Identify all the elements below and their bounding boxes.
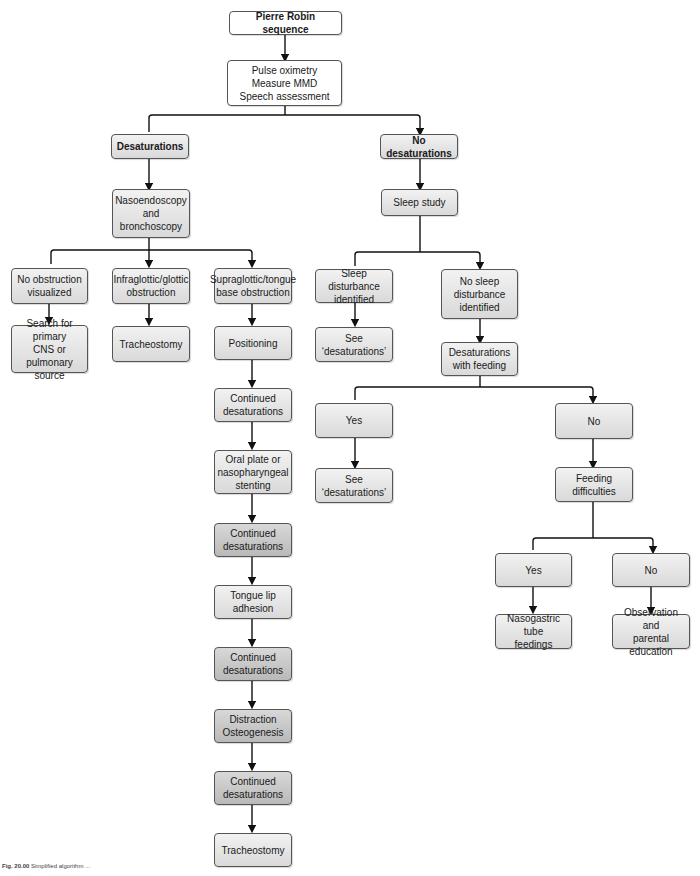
node-initial-assessment: Pulse oximetry Measure MMD Speech assess… [227, 60, 342, 106]
node-continued-desaturations-3: Continued desaturations [214, 647, 292, 681]
node-no-desaturations: No desaturations [380, 134, 458, 159]
node-see-desaturations-1: See ‘desaturations’ [315, 327, 393, 362]
node-sleep-study: Sleep study [381, 189, 458, 216]
node-continued-desaturations-4: Continued desaturations [214, 771, 292, 805]
node-feeding-difficulties: Feeding difficulties [555, 467, 633, 502]
node-tracheostomy-infra: Tracheostomy [112, 326, 190, 362]
node-tongue-lip-adhesion: Tongue lip adhesion [214, 585, 292, 619]
node-search-primary-source: Search for primary CNS or pulmonary sour… [11, 325, 88, 373]
node-nasoendoscopy: Nasoendoscopy and bronchoscopy [112, 189, 190, 238]
node-continued-desaturations-1: Continued desaturations [214, 388, 292, 422]
figure-caption-text: Simplified algorithm ... [31, 863, 90, 869]
node-distraction-osteogenesis: Distraction Osteogenesis [214, 709, 292, 743]
node-yes-feeding-desat: Yes [315, 403, 393, 438]
node-infraglottic-obstruction: Infraglottic/glottic obstruction [112, 268, 190, 304]
node-supraglottic-obstruction: Supraglottic/tongue base obstruction [214, 268, 292, 304]
node-no-obstruction: No obstruction visualized [11, 268, 88, 304]
node-see-desaturations-2: See ‘desaturations’ [315, 468, 393, 503]
node-no-feeding-desat: No [555, 403, 633, 439]
node-observation-education: Observation and parental education [612, 614, 690, 649]
node-desaturations: Desaturations [111, 134, 189, 159]
node-continued-desaturations-2: Continued desaturations [214, 523, 292, 557]
node-pierre-robin-sequence: Pierre Robin sequence [229, 11, 342, 35]
node-no-feeding-difficulties: No [612, 553, 690, 587]
node-nasogastric-tube: Nasogastric tube feedings [495, 614, 572, 649]
node-oral-plate-stenting: Oral plate or nasopharyngeal stenting [214, 450, 292, 494]
node-yes-feeding-difficulties: Yes [495, 553, 572, 587]
figure-caption-label: Fig. 20.00 [2, 863, 29, 869]
node-desaturations-with-feeding: Desaturations with feeding [441, 342, 518, 376]
node-sleep-disturbance: Sleep disturbance identified [315, 269, 393, 303]
node-tracheostomy-final: Tracheostomy [214, 833, 292, 867]
figure-caption: Fig. 20.00 Simplified algorithm ... [2, 863, 90, 869]
node-positioning: Positioning [214, 326, 292, 360]
node-no-sleep-disturbance: No sleep disturbance identified [441, 269, 518, 319]
